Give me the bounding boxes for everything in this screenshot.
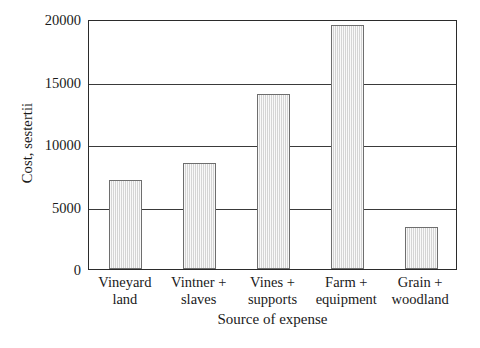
- y-axis-tick-labels: 05000100001500020000: [0, 20, 88, 270]
- x-tick-label-line: Farm +: [309, 274, 383, 291]
- y-tick-label: 10000: [4, 138, 88, 153]
- x-tick-label: Vineyardland: [88, 274, 162, 308]
- y-tick-label: 20000: [4, 13, 88, 28]
- bar: [109, 180, 142, 269]
- y-tick-label: 15000: [4, 75, 88, 90]
- x-tick-label-line: land: [88, 291, 162, 308]
- x-tick-label-line: slaves: [162, 291, 236, 308]
- x-tick-label-line: Grain +: [383, 274, 457, 291]
- x-tick-label-line: supports: [236, 291, 310, 308]
- y-tick-label: 0: [4, 263, 88, 278]
- x-tick-label: Grain +woodland: [383, 274, 457, 308]
- x-tick-label-line: woodland: [383, 291, 457, 308]
- gridline-15000: [89, 84, 456, 85]
- x-tick-label-line: Vineyard: [88, 274, 162, 291]
- bar: [405, 227, 438, 270]
- x-tick-label-line: Vines +: [236, 274, 310, 291]
- x-axis-tick-labels: VineyardlandVintner +slavesVines +suppor…: [88, 274, 457, 314]
- x-tick-label: Farm +equipment: [309, 274, 383, 308]
- bar: [183, 163, 216, 269]
- x-tick-label-line: equipment: [309, 291, 383, 308]
- x-tick-label-line: Vintner +: [162, 274, 236, 291]
- bar: [257, 94, 290, 269]
- x-axis-title: Source of expense: [88, 311, 457, 328]
- bar: [331, 25, 364, 269]
- x-tick-label: Vintner +slaves: [162, 274, 236, 308]
- y-tick-label: 5000: [4, 200, 88, 215]
- bar-chart-figure: Cost, sestertii 05000100001500020000 Vin…: [0, 0, 480, 348]
- x-tick-label: Vines +supports: [236, 274, 310, 308]
- plot-area: [88, 20, 457, 270]
